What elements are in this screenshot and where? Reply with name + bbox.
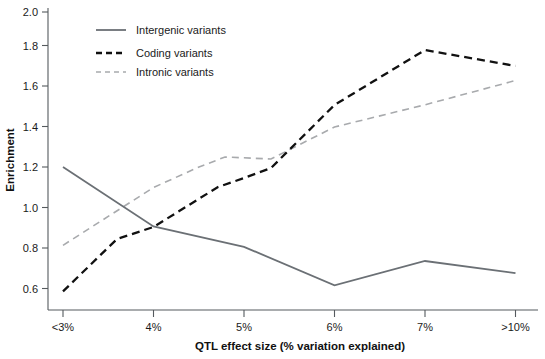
series-line-intergenic [63,167,516,285]
y-tick-label: 2.0 [23,6,38,18]
x-tick-label: 7% [417,321,433,333]
y-tick-label: 1.0 [23,202,38,214]
x-tick-label: <3% [52,321,75,333]
y-tick-label: 0.6 [23,283,38,295]
legend-label-intergenic: Intergenic variants [136,24,226,36]
y-tick-label: 0.8 [23,242,38,254]
legend-label-coding: Coding variants [136,47,213,59]
x-tick-label: 4% [146,321,162,333]
y-tick-label: 1.2 [23,161,38,173]
y-tick-label: 1.4 [23,121,38,133]
chart-canvas: 0.6 0.8 1.0 1.2 1.4 1.6 1.8 2.0 <3% 4% 5… [0,0,545,359]
y-axis-ticks: 0.6 0.8 1.0 1.2 1.4 1.6 1.8 2.0 [23,6,48,295]
enrichment-line-chart: 0.6 0.8 1.0 1.2 1.4 1.6 1.8 2.0 <3% 4% 5… [0,0,545,359]
x-tick-label: >10% [501,321,530,333]
x-axis-ticks: <3% 4% 5% 6% 7% >10% [52,310,530,333]
x-tick-label: 6% [327,321,343,333]
y-tick-label: 1.8 [23,40,38,52]
chart-legend: Intergenic variants Coding variants Intr… [96,24,226,78]
series-line-coding [63,50,516,291]
y-axis-title: Enrichment [4,128,16,191]
x-axis-title: QTL effect size (% variation explained) [195,340,405,352]
x-tick-label: 5% [236,321,252,333]
y-tick-label: 1.6 [23,80,38,92]
series-line-intronic [63,81,516,246]
legend-label-intronic: Intronic variants [136,66,214,78]
